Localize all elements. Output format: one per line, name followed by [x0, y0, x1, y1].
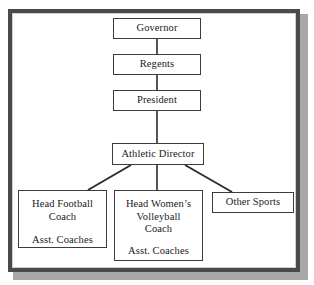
- node-head-football-coach[interactable]: Head Football Coach Asst. Coaches: [18, 190, 107, 248]
- node-regents[interactable]: Regents: [113, 54, 201, 75]
- edge-athletic-director-other-sports: [185, 165, 232, 192]
- node-other-sports[interactable]: Other Sports: [212, 192, 294, 213]
- node-other-sports-label: Other Sports: [226, 196, 281, 209]
- node-governor-label: Governor: [136, 22, 177, 35]
- node-president-label: President: [137, 94, 177, 107]
- node-head-womens-volleyball-coach-assistants: Asst. Coaches: [128, 245, 189, 258]
- node-head-womens-volleyball-coach-label-line3: Coach: [145, 223, 172, 236]
- node-governor[interactable]: Governor: [113, 18, 201, 39]
- node-athletic-director[interactable]: Athletic Director: [112, 143, 204, 165]
- node-head-football-coach-label-line2: Coach: [49, 211, 76, 224]
- screenshot-root: Governor Regents President Athletic Dire…: [0, 0, 314, 285]
- node-president[interactable]: President: [113, 90, 201, 111]
- org-chart-canvas: Governor Regents President Athletic Dire…: [0, 0, 314, 285]
- node-athletic-director-label: Athletic Director: [121, 148, 194, 161]
- node-head-womens-volleyball-coach[interactable]: Head Women’s Volleyball Coach Asst. Coac…: [114, 190, 203, 261]
- node-head-womens-volleyball-coach-label-line2: Volleyball: [137, 211, 181, 224]
- node-head-womens-volleyball-coach-label-line1: Head Women’s: [126, 198, 191, 211]
- node-head-football-coach-label-line1: Head Football: [32, 198, 93, 211]
- edge-athletic-director-head-football-coach: [88, 165, 131, 190]
- node-regents-label: Regents: [140, 58, 175, 71]
- node-head-football-coach-assistants: Asst. Coaches: [32, 234, 93, 247]
